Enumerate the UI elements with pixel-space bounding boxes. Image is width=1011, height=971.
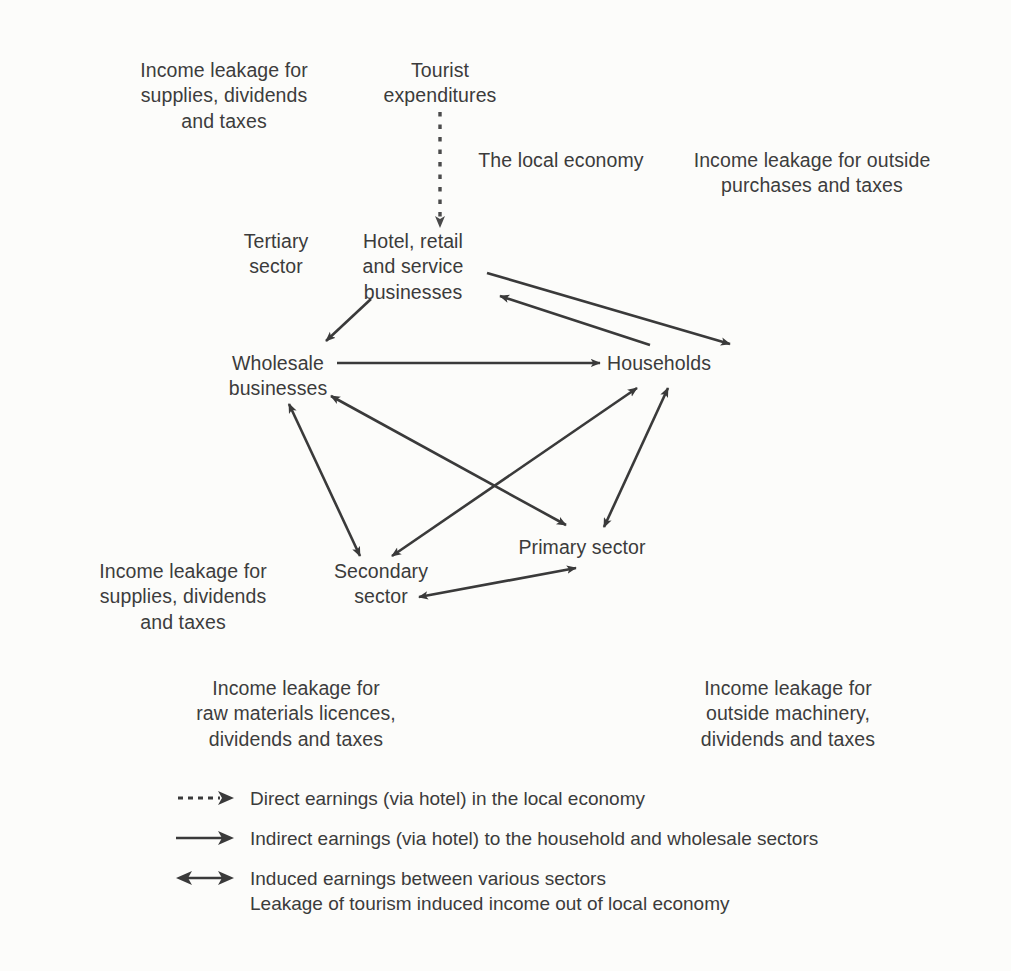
edge-wholesale-primary-sector [331, 396, 566, 525]
legend-label-induced-earnings: Induced earnings between various sectors… [250, 866, 730, 916]
node-tertiary-sector: Tertiary sector [205, 229, 347, 280]
node-primary-sector: Primary sector [504, 535, 660, 560]
edge-hotel-to-wholesale [326, 299, 371, 341]
node-wholesale-businesses: Wholesale businesses [204, 351, 352, 402]
dashed-arrow-icon [176, 786, 242, 810]
node-tourist-expenditures: Tourist expenditures [352, 58, 528, 109]
legend-item-indirect-earnings: Indirect earnings (via hotel) to the hou… [176, 826, 876, 852]
legend: Direct earnings (via hotel) in the local… [176, 786, 876, 930]
legend-label-indirect-earnings: Indirect earnings (via hotel) to the hou… [250, 826, 818, 851]
double-headed-arrow-icon [176, 866, 242, 890]
edge-primary-sector-households [604, 388, 668, 527]
edge-wholesale-secondary-sector [289, 404, 360, 556]
node-households: Households [596, 351, 722, 376]
solid-arrow-icon [176, 826, 242, 850]
node-hotel-retail-service-businesses: Hotel, retail and service businesses [340, 229, 486, 305]
leakage-label-bottom-right: Income leakage for outside machinery, di… [668, 676, 908, 752]
leakage-label-mid-left: Income leakage for supplies, dividends a… [82, 559, 284, 635]
diagram-page: Income leakage for supplies, dividends a… [0, 0, 1011, 971]
leakage-label-top-left: Income leakage for supplies, dividends a… [124, 58, 324, 134]
leakage-label-bottom-left: Income leakage for raw materials licence… [170, 676, 422, 752]
legend-item-induced-earnings: Induced earnings between various sectors… [176, 866, 876, 916]
edge-hotel-to-households [487, 273, 730, 344]
edge-households-to-hotel [500, 296, 650, 345]
legend-label-direct-earnings: Direct earnings (via hotel) in the local… [250, 786, 645, 811]
leakage-label-top-right: Income leakage for outside purchases and… [664, 148, 960, 199]
node-secondary-sector: Secondary sector [314, 559, 448, 610]
label-the-local-economy: The local economy [466, 148, 656, 173]
edge-secondary-sector-households [392, 388, 637, 556]
legend-item-direct-earnings: Direct earnings (via hotel) in the local… [176, 786, 876, 812]
